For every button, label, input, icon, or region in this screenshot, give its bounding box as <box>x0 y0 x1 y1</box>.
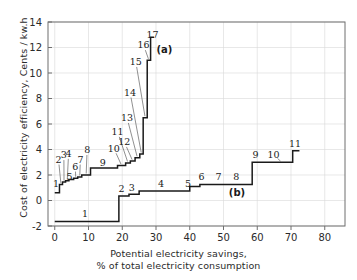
step-label: 7 <box>215 171 221 182</box>
step-label: 5 <box>67 171 73 182</box>
step-label: 1 <box>53 178 59 189</box>
y-tick-label: -2 <box>32 221 42 232</box>
y-tick-label: 2 <box>36 170 42 181</box>
y-tick-label: 6 <box>36 119 42 130</box>
step-label: 8 <box>84 144 90 155</box>
step-label: 4 <box>66 148 72 159</box>
step-label: 4 <box>158 178 164 189</box>
y-tick-label: 4 <box>36 144 42 155</box>
step-label: 15 <box>130 56 142 67</box>
step-label: 9 <box>253 149 259 160</box>
leader-line <box>59 165 61 184</box>
grid-layer <box>48 22 345 226</box>
x-tick-label: 10 <box>82 232 95 243</box>
axis-layer <box>48 22 345 230</box>
step-label: 3 <box>129 182 135 193</box>
series-layer <box>55 37 300 221</box>
x-tick-label: 60 <box>251 232 264 243</box>
x-axis-label-line2: % of total electricity consumption <box>0 260 357 272</box>
x-axis-label: Potential electricity savings, % of tota… <box>0 248 357 272</box>
leader-line <box>131 98 141 153</box>
step-label: 12 <box>118 136 130 147</box>
step-label: 16 <box>137 39 149 50</box>
step-label: 14 <box>124 87 136 98</box>
leader-line <box>126 147 132 160</box>
x-axis-label-line1: Potential electricity savings, <box>0 248 357 260</box>
leader-line <box>137 67 145 116</box>
y-tick-label: 12 <box>29 42 42 53</box>
y-tick-label: 0 <box>36 195 42 206</box>
step-label: 13 <box>121 112 133 123</box>
leader-line <box>116 153 121 164</box>
leader-line <box>145 50 148 59</box>
x-tick-label: 30 <box>150 232 163 243</box>
step-label: 17 <box>147 29 159 40</box>
y-tick-label: 8 <box>36 93 42 104</box>
step-label: 7 <box>77 154 83 165</box>
x-tick-label: 50 <box>217 232 230 243</box>
step-chart-plot: 01020304050607080-202468101214 123456789… <box>0 0 357 280</box>
curve-annotation-a: (a) <box>156 44 172 55</box>
step-label: 6 <box>199 171 205 182</box>
x-tick-label: 70 <box>285 232 298 243</box>
y-tick-label: 10 <box>29 68 42 79</box>
step-label: 10 <box>267 149 279 160</box>
step-label: 1 <box>82 208 88 219</box>
x-tick-label: 20 <box>116 232 129 243</box>
step-label: 8 <box>233 171 239 182</box>
y-axis-label: Cost of electricity efficiency, Cents / … <box>18 3 29 233</box>
tick-labels: 01020304050607080-202468101214 <box>29 17 331 244</box>
y-tick-label: 14 <box>29 17 42 28</box>
x-tick-label: 80 <box>318 232 331 243</box>
x-tick-label: 40 <box>183 232 196 243</box>
step-label: 2 <box>119 183 125 194</box>
step-label: 5 <box>185 178 191 189</box>
step-curve-b <box>55 151 300 222</box>
x-tick-label: 0 <box>52 232 58 243</box>
curve-annotation-b: (b) <box>229 187 245 198</box>
step-label: 9 <box>100 157 106 168</box>
figure-container: 01020304050607080-202468101214 123456789… <box>0 0 357 280</box>
step-label: 11 <box>289 138 301 149</box>
leader-line <box>86 155 87 174</box>
